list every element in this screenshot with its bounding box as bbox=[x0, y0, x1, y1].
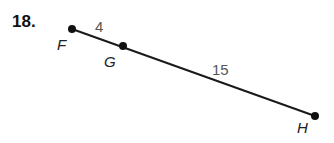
label-g: G bbox=[104, 53, 116, 70]
point-g bbox=[119, 42, 127, 50]
point-h bbox=[311, 112, 319, 120]
label-f: F bbox=[57, 36, 67, 53]
segment-figure: F G H 4 15 bbox=[0, 0, 334, 143]
length-fg: 4 bbox=[95, 18, 103, 35]
point-f bbox=[68, 25, 76, 33]
line-segment-fh bbox=[72, 29, 315, 116]
length-gh: 15 bbox=[212, 61, 229, 78]
label-h: H bbox=[297, 119, 308, 136]
